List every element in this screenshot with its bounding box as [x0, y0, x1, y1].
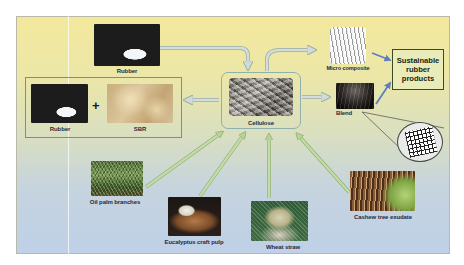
- eucalyptus-label: Eucalyptus craft pulp: [165, 239, 224, 245]
- micro-composite-label: Micro composite: [327, 65, 370, 71]
- sbr-image: [107, 84, 173, 123]
- sustainable-rubber-products-box: Sustainable rubber products: [392, 49, 444, 90]
- arrow-cellulose-to-microcomposite: [267, 50, 312, 71]
- rubber-group-image: [31, 84, 88, 123]
- arrow-oilpalm-to-cellulose: [146, 133, 221, 187]
- plus-operator: +: [92, 98, 100, 113]
- arrow-cashew-to-cellulose: [298, 135, 349, 192]
- arrow-rubber-to-cellulose: [158, 48, 248, 66]
- oil-palm-label: Oil palm branches: [90, 199, 140, 205]
- blend-image: [336, 83, 374, 109]
- sbr-label: SBR: [134, 126, 146, 132]
- cellulose-image: [229, 78, 293, 116]
- wheat-straw-image: [251, 201, 308, 241]
- product-line-2: rubber: [397, 65, 440, 74]
- cashew-label: Cashew tree exudate: [354, 214, 412, 220]
- cellulose-label: Cellulose: [248, 120, 274, 126]
- rubber-latex-image: [94, 24, 160, 66]
- blend-microstructure-zoom: [397, 122, 443, 162]
- rubber-group-label: Rubber: [50, 126, 70, 132]
- eucalyptus-pulp-image: [168, 197, 221, 236]
- arrow-microcomposite-to-product: [372, 53, 390, 60]
- micro-composite-image: [330, 27, 366, 64]
- arrow-blend-to-product: [376, 83, 390, 104]
- blend-label: Blend: [336, 110, 352, 116]
- product-line-3: products: [397, 74, 440, 83]
- mesh-pattern: [405, 126, 438, 157]
- oil-palm-image: [91, 161, 143, 196]
- product-line-1: Sustainable: [397, 56, 440, 65]
- rubber-top-label: Rubber: [117, 68, 137, 74]
- cashew-exudate-image: [350, 171, 415, 211]
- wheat-straw-label: Wheat straw: [266, 244, 300, 250]
